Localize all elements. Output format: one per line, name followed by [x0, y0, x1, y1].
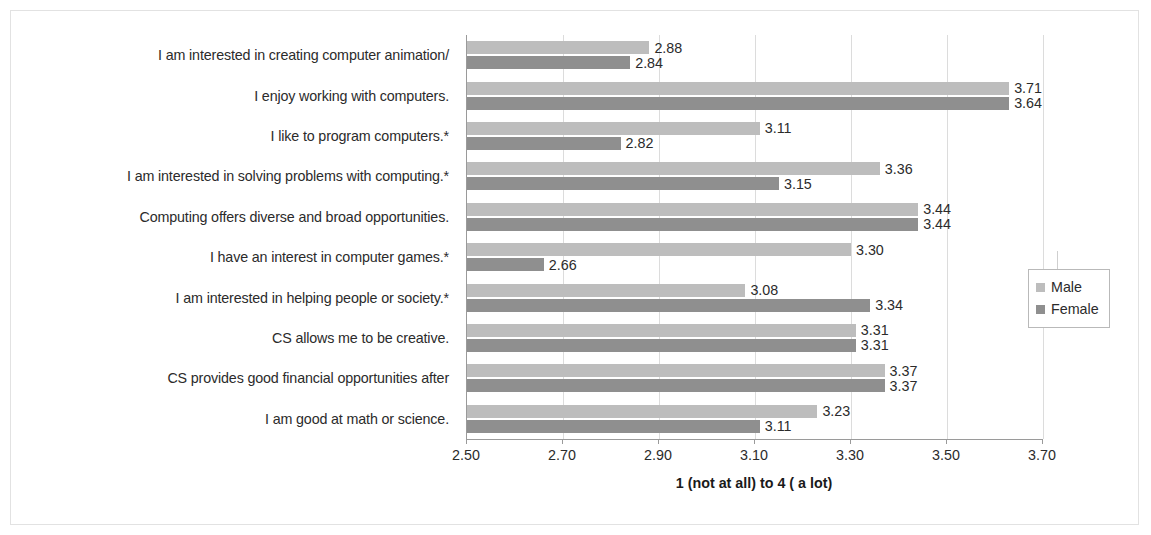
- x-tick-label: 2.70: [548, 447, 576, 463]
- bar-male[interactable]: [467, 122, 760, 135]
- legend-item-male[interactable]: Male: [1036, 276, 1099, 298]
- bar-line: 2.84: [467, 56, 1042, 69]
- category-label: I am good at math or science.: [11, 399, 458, 439]
- x-tick-mark: [658, 439, 659, 444]
- bar-female[interactable]: [467, 97, 1009, 110]
- bar-line: 3.36: [467, 162, 1042, 175]
- bar-group: 3.302.66: [467, 237, 1042, 277]
- bar-female[interactable]: [467, 177, 779, 190]
- bar-line: 3.15: [467, 177, 1042, 190]
- bar-value-label: 3.44: [923, 217, 951, 231]
- bar-female[interactable]: [467, 299, 870, 312]
- x-tick-mark: [754, 439, 755, 444]
- bar-group: 2.882.84: [467, 35, 1042, 75]
- category-axis-labels: I am interested in creating computer ani…: [11, 35, 458, 439]
- bar-value-label: 2.82: [626, 136, 654, 150]
- bar-male[interactable]: [467, 82, 1009, 95]
- bar-group: 3.083.34: [467, 277, 1042, 317]
- bar-male[interactable]: [467, 203, 918, 216]
- bar-line: 3.31: [467, 324, 1042, 337]
- bar-value-label: 3.15: [784, 177, 812, 191]
- x-tick-label: 2.90: [644, 447, 672, 463]
- bar-value-label: 3.44: [923, 202, 951, 216]
- bar-value-label: 2.66: [549, 258, 577, 272]
- bar-line: 3.64: [467, 97, 1042, 110]
- bar-female[interactable]: [467, 218, 918, 231]
- chart-plot-wrapper: I am interested in creating computer ani…: [11, 11, 1138, 524]
- bar-value-label: 3.37: [890, 379, 918, 393]
- bar-line: 2.88: [467, 41, 1042, 54]
- x-tick-mark: [466, 439, 467, 444]
- bar-group: 3.112.82: [467, 116, 1042, 156]
- category-label: I have an interest in computer games.*: [11, 237, 458, 277]
- bar-group: 3.363.15: [467, 156, 1042, 196]
- bar-line: 3.37: [467, 364, 1042, 377]
- bar-value-label: 3.31: [861, 323, 889, 337]
- bar-line: 3.08: [467, 284, 1042, 297]
- legend-label: Male: [1051, 276, 1082, 298]
- bar-line: 3.37: [467, 379, 1042, 392]
- bar-male[interactable]: [467, 162, 880, 175]
- bar-value-label: 3.36: [885, 162, 913, 176]
- chart-container: I am interested in creating computer ani…: [10, 10, 1139, 525]
- bar-value-label: 3.11: [765, 121, 792, 135]
- x-tick-mark: [946, 439, 947, 444]
- bar-female[interactable]: [467, 56, 630, 69]
- bar-group: 3.443.44: [467, 197, 1042, 237]
- bar-male[interactable]: [467, 284, 745, 297]
- gridline: [1043, 35, 1044, 439]
- bar-female[interactable]: [467, 420, 760, 433]
- bar-value-label: 3.31: [861, 338, 889, 352]
- bar-line: 3.44: [467, 203, 1042, 216]
- legend-item-female[interactable]: Female: [1036, 298, 1099, 320]
- bar-male[interactable]: [467, 364, 885, 377]
- bar-line: 2.82: [467, 137, 1042, 150]
- x-tick-label: 3.70: [1028, 447, 1056, 463]
- bar-line: 3.23: [467, 405, 1042, 418]
- plot-area: 2.882.843.713.643.112.823.363.153.443.44…: [466, 35, 1042, 439]
- category-label: I am interested in solving problems with…: [11, 156, 458, 196]
- x-tick-label: 3.50: [932, 447, 960, 463]
- bar-group: 3.313.31: [467, 318, 1042, 358]
- bar-group: 3.713.64: [467, 75, 1042, 115]
- x-tick-mark: [850, 439, 851, 444]
- bar-line: 3.34: [467, 299, 1042, 312]
- x-axis-title: 1 (not at all) to 4 ( a lot): [466, 475, 1042, 491]
- category-label: I like to program computers.*: [11, 116, 458, 156]
- bar-female[interactable]: [467, 258, 544, 271]
- category-label: CS allows me to be creative.: [11, 318, 458, 358]
- bar-line: 2.66: [467, 258, 1042, 271]
- bar-female[interactable]: [467, 339, 856, 352]
- bar-line: 3.11: [467, 420, 1042, 433]
- legend-label: Female: [1051, 298, 1099, 320]
- bar-line: 3.31: [467, 339, 1042, 352]
- x-tick-mark: [1042, 439, 1043, 444]
- bar-female[interactable]: [467, 379, 885, 392]
- bar-group: 3.233.11: [467, 399, 1042, 439]
- bar-line: 3.30: [467, 243, 1042, 256]
- bar-male[interactable]: [467, 324, 856, 337]
- category-label: CS provides good financial opportunities…: [11, 358, 458, 398]
- bar-male[interactable]: [467, 405, 817, 418]
- bar-value-label: 3.23: [822, 404, 850, 418]
- bar-value-label: 3.34: [875, 298, 903, 312]
- bar-line: 3.71: [467, 82, 1042, 95]
- bar-value-label: 3.64: [1014, 96, 1042, 110]
- bar-male[interactable]: [467, 41, 649, 54]
- bar-group: 3.373.37: [467, 358, 1042, 398]
- bar-male[interactable]: [467, 243, 851, 256]
- category-label: I am interested in helping people or soc…: [11, 277, 458, 317]
- bar-value-label: 2.84: [635, 56, 663, 70]
- bar-value-label: 3.08: [750, 283, 778, 297]
- category-label: Computing offers diverse and broad oppor…: [11, 197, 458, 237]
- bar-value-label: 3.37: [890, 364, 918, 378]
- bar-female[interactable]: [467, 137, 621, 150]
- legend-leader-line: [1057, 251, 1058, 270]
- category-label: I enjoy working with computers.: [11, 75, 458, 115]
- category-label: I am interested in creating computer ani…: [11, 35, 458, 75]
- bar-value-label: 2.88: [654, 41, 682, 55]
- x-tick-label: 2.50: [452, 447, 480, 463]
- bar-rows: 2.882.843.713.643.112.823.363.153.443.44…: [467, 35, 1042, 439]
- x-tick-mark: [562, 439, 563, 444]
- bar-value-label: 3.30: [856, 243, 884, 257]
